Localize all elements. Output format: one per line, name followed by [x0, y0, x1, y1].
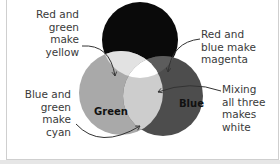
annotation-line: Red and	[201, 28, 271, 41]
annotation-line: magenta	[201, 53, 271, 66]
label-blue: Blue	[179, 98, 204, 109]
annotation-cyan: Blue and green make cyan	[14, 88, 71, 138]
annotation-line: Red and	[20, 8, 79, 21]
annotation-line: white	[222, 121, 277, 134]
annotation-line: yellow	[20, 46, 79, 59]
annotation-line: all three	[222, 96, 277, 109]
annotation-magenta: Red and blue make magenta	[201, 28, 271, 66]
label-green: Green	[94, 106, 128, 117]
annotation-yellow: Red and green make yellow	[20, 8, 79, 58]
annotation-line: Blue and	[14, 88, 71, 101]
annotation-line: blue make	[201, 41, 271, 54]
annotation-line: make cyan	[14, 113, 71, 138]
annotation-line: green	[14, 101, 71, 114]
annotation-line: green make	[20, 21, 79, 46]
annotation-white: Mixing all three makes white	[222, 83, 277, 133]
annotation-line: Mixing	[222, 83, 277, 96]
annotation-line: makes	[222, 108, 277, 121]
